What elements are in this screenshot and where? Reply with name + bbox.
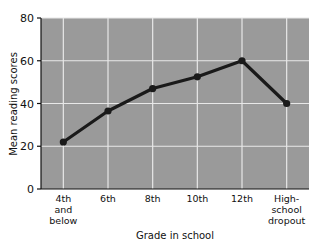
x-axis-category-label: 4th — [55, 193, 71, 204]
x-axis-category-label: High- — [274, 193, 299, 204]
x-axis-category-label: below — [49, 215, 77, 226]
data-point — [283, 100, 290, 107]
y-axis-tick-label: 40 — [20, 98, 34, 111]
data-point — [149, 85, 156, 92]
y-axis-tick-label: 80 — [20, 12, 34, 25]
x-axis-title: Grade in school — [136, 230, 214, 241]
data-point — [238, 57, 245, 64]
x-axis-category-label: and — [54, 204, 72, 215]
y-axis-tick-label: 20 — [20, 140, 34, 153]
x-axis-category-label: dropout — [268, 215, 305, 226]
data-point — [104, 107, 111, 114]
x-axis-category-label: 6th — [100, 193, 116, 204]
chart-canvas: 020406080 4thandbelow6th8th10th12thHigh-… — [0, 0, 316, 245]
line-chart: 020406080 4thandbelow6th8th10th12thHigh-… — [0, 0, 316, 245]
y-axis-title: Mean reading scores — [8, 52, 19, 156]
data-point — [194, 73, 201, 80]
x-axis-category-label: 8th — [145, 193, 161, 204]
y-axis-tick-label: 60 — [20, 55, 34, 68]
x-axis-category-label: 10th — [186, 193, 208, 204]
x-axis-category-label: 12th — [231, 193, 253, 204]
y-axis-tick-label: 0 — [27, 183, 34, 196]
x-axis-category-label: school — [271, 204, 301, 215]
data-point — [60, 138, 67, 145]
